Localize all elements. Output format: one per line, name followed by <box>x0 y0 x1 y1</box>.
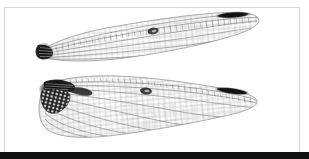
dragonfly-wings-image <box>0 0 309 159</box>
right-margin <box>300 0 309 152</box>
bottom-dark-band <box>0 152 309 159</box>
specimen-figure <box>0 0 309 159</box>
top-margin <box>0 0 309 7</box>
left-margin <box>0 0 4 152</box>
